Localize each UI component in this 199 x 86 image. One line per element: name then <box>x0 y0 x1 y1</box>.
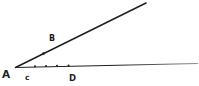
point-dot-b <box>42 52 45 55</box>
tick-dot <box>56 65 58 67</box>
angle-diagram-canvas: A B c D <box>0 0 198 86</box>
point-label-b: B <box>49 34 55 43</box>
dots-layer <box>34 52 70 67</box>
ray-through-c-d <box>16 64 199 68</box>
point-label-d: D <box>69 73 76 83</box>
geometry-figure: A B c D <box>0 0 198 86</box>
rays-layer <box>16 3 199 68</box>
ray-through-b <box>16 3 147 68</box>
point-dot-d <box>67 64 69 66</box>
point-label-c: c <box>25 73 29 82</box>
tick-dot <box>45 65 47 67</box>
labels-layer: A B c D <box>2 34 76 83</box>
point-dot-c <box>34 65 36 67</box>
vertex-label-a: A <box>2 68 11 80</box>
